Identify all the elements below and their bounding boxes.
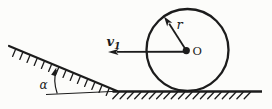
hatch-tick [63, 71, 66, 78]
hatch-tick [99, 86, 102, 93]
hatch-tick [27, 56, 30, 63]
incline-line [9, 46, 117, 91]
incline-hatching [13, 50, 110, 96]
hatch-tick [41, 62, 44, 69]
hatch-tick [193, 92, 199, 99]
hatch-tick [157, 92, 163, 99]
hatch-tick [222, 92, 228, 99]
hatch-tick [237, 92, 243, 99]
hatch-tick [149, 92, 155, 99]
velocity-subscript: 1 [114, 40, 121, 51]
angle-arc-arrowhead-icon [51, 68, 56, 77]
hatch-tick [135, 92, 141, 99]
hatch-tick [186, 92, 192, 99]
hatch-tick [120, 92, 126, 99]
ground-hatching [113, 92, 251, 99]
hatch-tick [164, 92, 170, 99]
hatch-tick [200, 92, 206, 99]
hatch-tick [171, 92, 177, 99]
hatch-tick [142, 92, 148, 99]
hatch-tick [77, 77, 80, 84]
hatch-tick [92, 83, 95, 90]
hatch-tick [34, 59, 37, 66]
hatch-tick [179, 92, 185, 99]
hatch-tick [127, 92, 133, 99]
radius-arrowhead-icon [164, 16, 172, 26]
hatch-tick [20, 53, 23, 60]
hatch-tick [13, 50, 16, 57]
center-label: O [193, 44, 202, 58]
radius-label: r [177, 17, 184, 32]
hatch-tick [85, 80, 88, 87]
hatch-tick [244, 92, 250, 99]
hatch-tick [208, 92, 214, 99]
hatch-tick [49, 65, 52, 72]
physics-diagram: r O v1 α [0, 0, 272, 109]
hatch-tick [230, 92, 236, 99]
velocity-label: v1 [107, 34, 121, 52]
angle-label: α [40, 78, 48, 92]
hatch-tick [113, 92, 119, 99]
hatch-tick [70, 74, 73, 81]
hatch-tick [215, 92, 221, 99]
diagram-canvas: r O v1 α [0, 0, 272, 109]
